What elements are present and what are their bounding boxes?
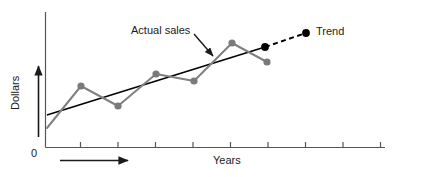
trend-point-marker xyxy=(302,29,310,37)
trend-line-solid xyxy=(47,47,265,115)
origin-label: 0 xyxy=(31,148,37,159)
data-point-marker xyxy=(152,70,159,77)
data-point-marker xyxy=(114,102,121,109)
x-axis-label: Years xyxy=(213,155,241,166)
trend-line-dashed xyxy=(265,34,303,47)
data-point-marker xyxy=(228,39,235,46)
trend-chart-figure: Dollars Years 0 Actual sales Trend xyxy=(0,0,431,177)
trend-point-marker xyxy=(261,43,269,51)
actual-sales-callout-arrow xyxy=(194,34,213,56)
y-axis-label: Dollars xyxy=(10,76,21,110)
data-point-marker xyxy=(263,58,270,65)
x-axis-ticks xyxy=(81,142,381,148)
actual-sales-annotation-label: Actual sales xyxy=(131,25,190,36)
data-point-marker xyxy=(190,77,197,84)
data-point-marker xyxy=(77,82,84,89)
trend-annotation-label: Trend xyxy=(316,26,344,37)
chart-canvas xyxy=(0,0,431,177)
